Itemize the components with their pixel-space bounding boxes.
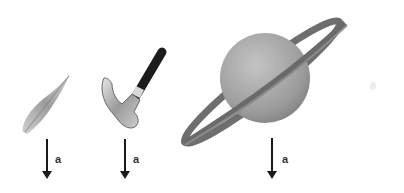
acceleration-arrow-hammer: [124, 139, 126, 173]
acceleration-label-hammer: a: [133, 153, 139, 165]
acceleration-label-feather: a: [55, 153, 61, 165]
hammer-icon: [98, 44, 170, 134]
feather-icon: [15, 70, 75, 140]
faint-mark: [370, 82, 376, 90]
acceleration-arrow-saturn: [271, 138, 273, 173]
falling-objects-diagram: a a a: [0, 0, 404, 193]
acceleration-label-saturn: a: [282, 153, 288, 165]
saturn-icon: [170, 5, 360, 155]
acceleration-arrow-feather: [46, 139, 48, 173]
